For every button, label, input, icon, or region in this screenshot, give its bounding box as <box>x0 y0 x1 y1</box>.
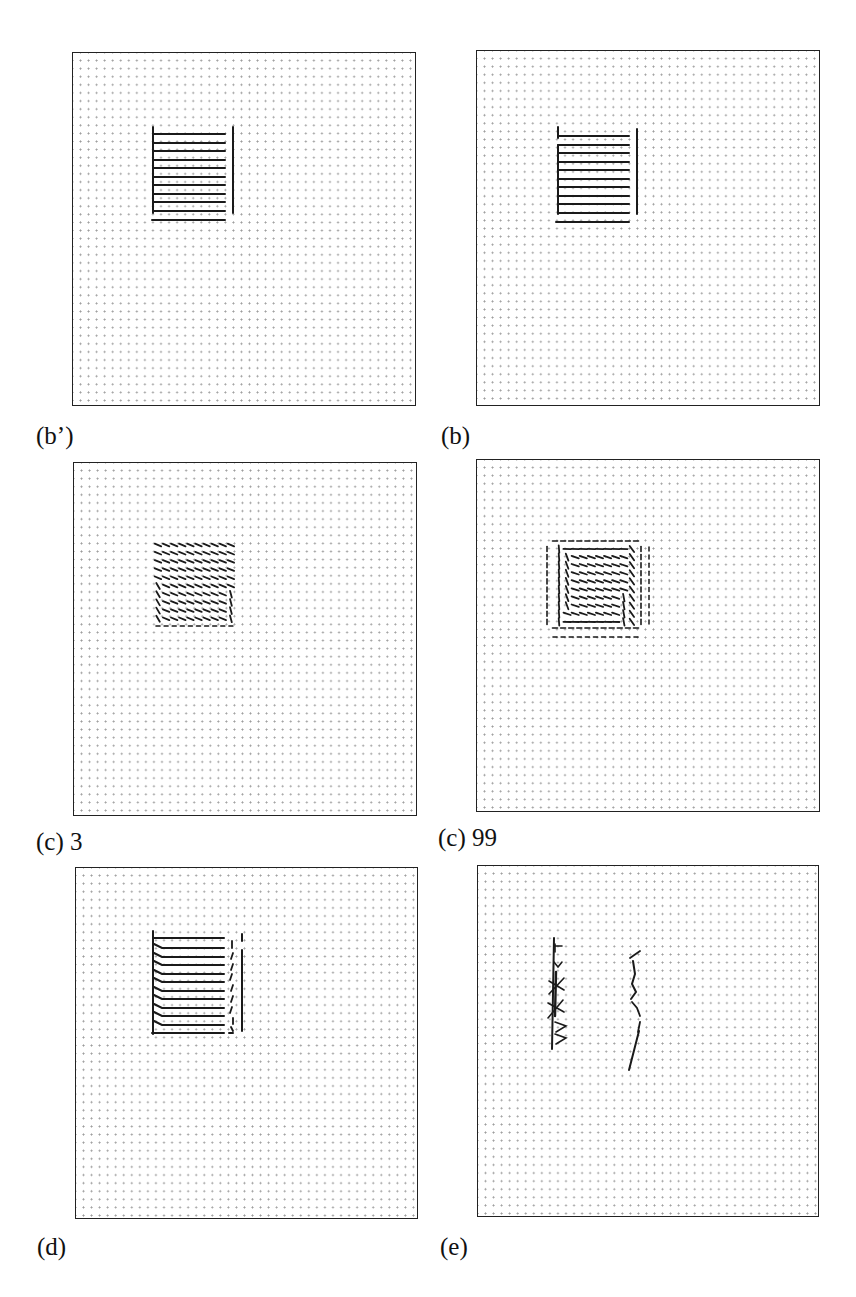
panel-d <box>75 867 418 1219</box>
panel-b <box>476 50 820 406</box>
vector-field-c-3 <box>74 463 418 817</box>
panel-label-c-99: (c) 99 <box>438 824 497 852</box>
panel-label-d: (d) <box>37 1233 66 1261</box>
panel-e <box>477 865 819 1217</box>
panel-c-99 <box>476 459 820 812</box>
vector-field-c-99 <box>477 460 821 813</box>
panel-label-b-prime: (b’) <box>36 422 73 450</box>
vector-field-e <box>478 866 820 1218</box>
panel-label-e: (e) <box>440 1233 468 1261</box>
vector-field-b <box>477 51 821 407</box>
vector-field-b-prime <box>73 53 417 407</box>
panel-label-b: (b) <box>441 422 470 450</box>
panel-b-prime <box>72 52 416 406</box>
panel-c-3 <box>73 462 417 816</box>
panel-label-c-3: (c) 3 <box>36 828 83 856</box>
vector-field-d <box>76 868 419 1220</box>
